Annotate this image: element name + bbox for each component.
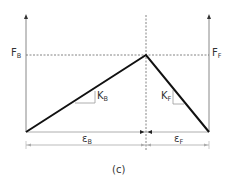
stiffness-label-left: KB <box>97 91 108 103</box>
force-label-left: FB <box>11 48 21 60</box>
diagram-canvas <box>0 0 225 186</box>
dim-arrow-icon <box>204 144 208 147</box>
dim-arrow-icon <box>27 144 31 147</box>
force-label-right: FF <box>212 48 222 60</box>
right-axis-arrow-icon <box>207 14 211 19</box>
baseline-arrow-left-icon <box>140 130 145 134</box>
force-displacement-curve <box>26 55 209 132</box>
strain-label-right: εF <box>174 134 183 146</box>
figure-caption: (c) <box>112 165 125 175</box>
dim-arrow-icon <box>147 144 151 147</box>
stiffness-triangle-left <box>75 91 95 103</box>
left-axis-arrow-icon <box>24 14 28 19</box>
strain-label-left: εB <box>82 134 92 146</box>
stiffness-triangle-right <box>173 90 184 104</box>
baseline-arrow-right-icon <box>148 130 153 134</box>
dim-arrow-icon <box>141 144 145 147</box>
stiffness-label-right: KF <box>161 91 171 103</box>
